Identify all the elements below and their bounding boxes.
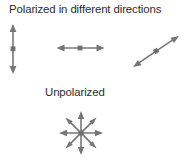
starburst-arrow-head-east bbox=[95, 130, 103, 136]
vertical-arrow-head-down bbox=[10, 66, 17, 74]
horizontal-arrow-center-dot bbox=[78, 46, 83, 51]
vertical-polarization-arrow bbox=[10, 24, 17, 74]
horizontal-arrow-head-right bbox=[97, 45, 105, 52]
starburst-center-dot bbox=[78, 130, 83, 135]
starburst-arrow-head-north bbox=[78, 111, 84, 119]
polarization-diagram: Polarized in different directions Unpola… bbox=[0, 0, 186, 168]
horizontal-polarization-arrow bbox=[57, 45, 105, 52]
unpolarized-starburst bbox=[59, 111, 103, 155]
diagonal-polarization-arrow bbox=[133, 36, 179, 67]
starburst-arrow-head-south bbox=[78, 147, 84, 155]
vertical-arrow-center-dot bbox=[11, 46, 16, 51]
diagonal-arrow-head-upper-right bbox=[170, 36, 179, 43]
vertical-arrow-head-up bbox=[10, 24, 17, 32]
starburst-arrow-head-west bbox=[59, 130, 67, 136]
horizontal-arrow-head-left bbox=[57, 45, 65, 52]
arrows-canvas bbox=[0, 0, 186, 168]
